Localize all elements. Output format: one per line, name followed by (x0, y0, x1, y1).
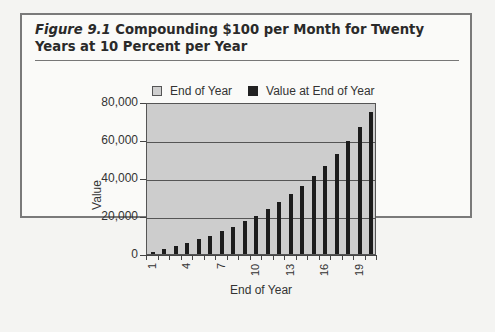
y-tick-mark (140, 217, 146, 218)
bar-year-3 (174, 246, 178, 254)
x-tick-mark (342, 255, 343, 260)
x-tick-mark (204, 255, 205, 260)
x-tick-mark (238, 255, 239, 260)
x-tick-label: 19 (353, 264, 365, 276)
x-tick-mark (330, 255, 331, 260)
bar-year-10 (254, 216, 258, 254)
bar-year-6 (208, 236, 212, 254)
bar-year-17 (335, 154, 339, 254)
x-tick-mark (353, 255, 354, 260)
y-tick-mark (140, 179, 146, 180)
bar-year-11 (266, 209, 270, 254)
x-tick-mark (376, 255, 377, 260)
y-tick-label: 0 (131, 247, 138, 261)
gridline (147, 218, 375, 219)
plot-area (146, 103, 376, 255)
x-tick-mark (169, 255, 170, 260)
x-tick-mark (181, 255, 182, 260)
x-tick-mark (192, 255, 193, 260)
bar-year-20 (369, 112, 373, 254)
y-tick-mark (140, 141, 146, 142)
y-tick-label: 20,000 (101, 209, 138, 223)
x-tick-mark (158, 255, 159, 260)
x-tick-label: 10 (249, 264, 261, 276)
legend-swatch-end-of-year (152, 86, 162, 96)
bar-year-12 (277, 202, 281, 254)
bar-year-2 (162, 249, 166, 254)
x-tick-label: 7 (215, 263, 227, 269)
x-tick-mark (215, 255, 216, 260)
x-tick-mark (365, 255, 366, 260)
x-axis-title: End of Year (230, 283, 292, 297)
legend-label-end-of-year: End of Year (170, 84, 232, 98)
x-tick-label: 13 (284, 264, 296, 276)
x-tick-mark (273, 255, 274, 260)
x-tick-mark (261, 255, 262, 260)
bar-year-7 (220, 231, 224, 254)
x-tick-mark (296, 255, 297, 260)
bar-year-9 (243, 221, 247, 254)
gridline (147, 180, 375, 181)
x-tick-mark (250, 255, 251, 260)
legend-label-value: Value at End of Year (266, 84, 375, 98)
bar-year-19 (358, 127, 362, 254)
bar-year-8 (231, 227, 235, 254)
bar-year-18 (346, 141, 350, 254)
y-tick-label: 40,000 (101, 171, 138, 185)
gridline (147, 142, 375, 143)
x-tick-mark (307, 255, 308, 260)
x-tick-label: 1 (146, 263, 158, 269)
bar-year-1 (151, 252, 155, 254)
x-tick-label: 4 (180, 263, 192, 269)
bar-year-15 (312, 176, 316, 254)
bar-year-13 (289, 194, 293, 254)
bar-year-4 (185, 243, 189, 254)
figure-title: Figure 9.1 Compounding $100 per Month fo… (35, 21, 455, 55)
x-tick-mark (146, 255, 147, 260)
y-tick-label: 60,000 (101, 133, 138, 147)
bar-year-14 (300, 186, 304, 254)
y-tick-mark (140, 103, 146, 104)
chart-legend: End of Year Value at End of Year (152, 84, 375, 98)
bar-year-16 (323, 166, 327, 254)
x-tick-label: 16 (318, 264, 330, 276)
figure-label: Figure 9.1 (35, 22, 111, 37)
x-tick-mark (227, 255, 228, 260)
title-rule (35, 60, 459, 61)
legend-swatch-value (248, 86, 258, 96)
y-tick-label: 80,000 (101, 95, 138, 109)
x-tick-mark (284, 255, 285, 260)
x-tick-mark (319, 255, 320, 260)
bar-year-5 (197, 239, 201, 254)
